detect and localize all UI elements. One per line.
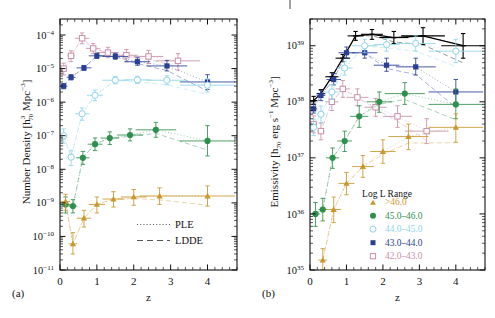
x-tick-label: 0 [307, 275, 313, 287]
marker-square-open [318, 128, 323, 133]
marker-circle-open [318, 111, 324, 117]
marker-circle-open [134, 77, 140, 83]
marker-square-filled [331, 77, 336, 82]
x-tick-label: 2 [380, 275, 386, 287]
x-tick-label: 2 [131, 275, 137, 287]
marker-circle-open [92, 92, 98, 98]
figure-svg: 01234z10−410−510−610−710−810−910−1010−11… [0, 0, 495, 318]
x-axis-label-b: z [395, 291, 400, 303]
legend-marker-square-open [370, 254, 375, 259]
legend-label-43.0-44.0: 43.0–44.0 [385, 238, 423, 248]
marker-square-filled [413, 64, 418, 69]
marker-circle-open [112, 77, 118, 83]
x-tick-label: 1 [94, 275, 100, 287]
marker-circle-open [453, 48, 459, 54]
marker-square-open [79, 36, 84, 41]
legend-label--46.0: >46.0 [385, 197, 407, 207]
x-tick-label: 3 [417, 275, 423, 287]
marker-square-open [146, 54, 151, 59]
marker-square-filled [113, 54, 118, 59]
marker-circle-filled [356, 113, 362, 119]
marker-circle-open [164, 77, 170, 83]
marker-circle-filled [320, 206, 326, 212]
panel-label-b: (b) [262, 287, 275, 300]
legend-marker-circle-filled [370, 213, 376, 219]
marker-square-open [68, 53, 73, 58]
marker-square-filled [384, 63, 389, 68]
marker-circle-filled [330, 155, 336, 161]
marker-square-filled [318, 93, 323, 98]
marker-square-open [175, 58, 180, 63]
legend-label-ldde: LDDE [175, 235, 203, 246]
marker-circle-open [79, 111, 85, 117]
marker-square-filled [68, 75, 73, 80]
panel-b-y-axis-title: Emissivity [h70 erg s−1 Mpc−3] [267, 37, 283, 247]
marker-circle-filled [80, 155, 86, 161]
marker-circle-open [68, 154, 74, 160]
legend-label-ple: PLE [175, 219, 194, 230]
marker-circle-open [311, 124, 317, 130]
marker-circle-open [362, 43, 368, 49]
marker-circle-filled [402, 91, 408, 97]
marker-square-filled [135, 59, 140, 64]
panel-label-a: (a) [12, 287, 25, 300]
marker-square-open [395, 114, 400, 119]
marker-square-filled [164, 63, 169, 68]
legend-marker-circle-open [370, 226, 376, 232]
marker-circle-filled [127, 132, 133, 138]
x-tick-label: 4 [205, 275, 211, 287]
marker-circle-filled [376, 99, 382, 105]
marker-circle-filled [204, 138, 210, 144]
marker-square-filled [81, 65, 86, 70]
marker-square-open [340, 86, 345, 91]
marker-circle-filled [153, 127, 159, 133]
marker-circle-open [413, 40, 419, 46]
marker-square-open [105, 50, 110, 55]
marker-circle-filled [453, 101, 459, 107]
marker-square-filled [94, 53, 99, 58]
panel-a-y-axis-title: Number Density [h370 Mpc−3] [19, 37, 35, 247]
marker-square-open [355, 95, 360, 100]
marker-circle-open [204, 82, 210, 88]
marker-circle-filled [107, 135, 113, 141]
marker-circle-filled [342, 138, 348, 144]
x-tick-label: 1 [344, 275, 350, 287]
x-tick-label: 4 [453, 275, 459, 287]
marker-square-filled [344, 50, 349, 55]
legend-label-45.0-46.0: 45.0–46.0 [385, 211, 423, 221]
figure-root: 01234z10−410−510−610−710−810−910−1010−11… [0, 0, 495, 318]
marker-square-open [90, 46, 95, 51]
marker-circle-open [342, 65, 348, 71]
x-tick-label: 3 [168, 275, 174, 287]
legend-label-44.0-45.0: 44.0–45.0 [385, 224, 423, 234]
legend-label-42.0-43.0: 42.0–43.0 [385, 251, 423, 261]
marker-circle-filled [70, 203, 76, 209]
x-tick-label: 0 [57, 275, 63, 287]
marker-circle-open [329, 89, 335, 95]
legend-marker-square-filled [371, 240, 376, 245]
marker-circle-filled [92, 141, 98, 147]
marker-square-open [124, 53, 129, 58]
x-axis-label-a: z [146, 291, 151, 303]
marker-circle-open [383, 41, 389, 47]
marker-square-open [329, 99, 334, 104]
